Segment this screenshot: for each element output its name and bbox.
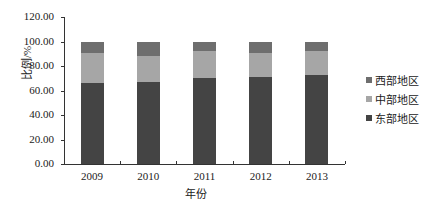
legend-swatch-central bbox=[366, 96, 372, 102]
x-tick-mark bbox=[120, 161, 121, 164]
y-tick-mark bbox=[61, 66, 64, 67]
y-tick-mark bbox=[61, 115, 64, 116]
y-tick-label: 100.00 bbox=[14, 35, 54, 47]
x-tick-label: 2009 bbox=[72, 170, 112, 182]
legend-item-east: 东部地区 bbox=[366, 108, 419, 127]
bar-segment bbox=[305, 42, 328, 51]
bar-segment bbox=[249, 53, 272, 78]
bar-segment bbox=[249, 77, 272, 164]
x-tick-mark bbox=[345, 161, 346, 164]
legend-item-west: 西部地区 bbox=[366, 70, 419, 89]
legend-item-central: 中部地区 bbox=[366, 89, 419, 108]
bar-segment bbox=[137, 82, 160, 164]
x-tick-label: 2010 bbox=[128, 170, 168, 182]
y-tick-mark bbox=[61, 140, 64, 141]
y-tick-label: 40.00 bbox=[14, 108, 54, 120]
y-tick-mark bbox=[61, 17, 64, 18]
y-tick-label: 0.00 bbox=[14, 157, 54, 169]
x-tick-label: 2011 bbox=[185, 170, 225, 182]
bar-segment bbox=[137, 56, 160, 82]
legend: 西部地区 中部地区 东部地区 bbox=[366, 70, 419, 127]
y-tick-label: 20.00 bbox=[14, 133, 54, 145]
y-tick-label: 60.00 bbox=[14, 84, 54, 96]
legend-label: 中部地区 bbox=[375, 91, 419, 107]
bar-segment bbox=[81, 53, 104, 83]
legend-swatch-west bbox=[366, 77, 372, 83]
legend-swatch-east bbox=[366, 115, 372, 121]
x-tick-mark bbox=[233, 161, 234, 164]
y-tick-label: 80.00 bbox=[14, 59, 54, 71]
x-axis-label: 年份 bbox=[185, 185, 207, 201]
x-tick-mark bbox=[176, 161, 177, 164]
x-tick-label: 2013 bbox=[297, 170, 337, 182]
bar-segment bbox=[305, 75, 328, 164]
bar-segment bbox=[249, 42, 272, 53]
legend-label: 东部地区 bbox=[375, 110, 419, 126]
y-tick-mark bbox=[61, 42, 64, 43]
bar-segment bbox=[193, 51, 216, 78]
bar-segment bbox=[193, 78, 216, 164]
x-tick-label: 2012 bbox=[241, 170, 281, 182]
stacked-bar-chart: 比例/% 0.0020.0040.0060.0080.00100.00120.0… bbox=[0, 0, 422, 206]
y-axis bbox=[64, 17, 65, 164]
bar-segment bbox=[81, 83, 104, 164]
y-tick-mark bbox=[61, 91, 64, 92]
bar-segment bbox=[137, 42, 160, 56]
y-tick-label: 120.00 bbox=[14, 10, 54, 22]
bar-segment bbox=[193, 42, 216, 52]
bar-segment bbox=[81, 42, 104, 53]
legend-label: 西部地区 bbox=[375, 72, 419, 88]
y-tick-mark bbox=[61, 164, 64, 165]
x-tick-mark bbox=[289, 161, 290, 164]
x-axis bbox=[64, 164, 345, 165]
bar-segment bbox=[305, 51, 328, 76]
